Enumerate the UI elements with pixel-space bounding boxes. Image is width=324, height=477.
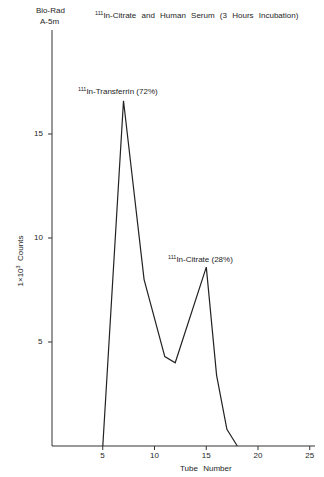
x-tick-label: 5 [100,451,104,460]
x-tick-label: 15 [202,451,211,460]
y-tick-label: 10 [34,233,43,242]
peak2-annotation: 111In-Citrate (28%) [168,254,233,264]
column-label-line2: A-5m [40,17,59,26]
peak1-annotation: 111In-Transferrin (72%) [78,86,158,96]
ylabel-prefix: 1×10 [16,268,25,286]
y-ticks [48,134,52,342]
x-ticks [103,446,310,450]
y-axis-label: 1×103 Counts [15,231,25,291]
chart-canvas [0,0,324,477]
peak1-label: In-Transferrin (72%) [86,87,157,96]
y-tick-label: 15 [34,129,43,138]
y-tick-label: 5 [38,337,42,346]
ylabel-exponent: 3 [15,265,21,268]
x-tick-label: 25 [305,451,314,460]
x-tick-label: 20 [254,451,263,460]
data-line [103,101,238,446]
title-text: In-Citrate and Human Serum (3 Hours Incu… [103,11,298,20]
x-axis-label: Tube Number [180,464,232,473]
ylabel-suffix: Counts [16,236,25,261]
chart-title: 111In-Citrate and Human Serum (3 Hours I… [95,10,298,20]
x-tick-label: 10 [150,451,159,460]
peak2-label: In-Citrate (28%) [176,255,232,264]
column-label-line1: Bio-Rad [36,6,65,15]
